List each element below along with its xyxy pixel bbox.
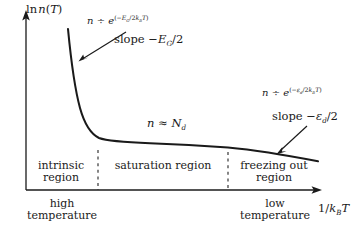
annotation-freezing-formula: n ÷ e(−εd/2kBT) [262, 87, 322, 99]
freezing-slope-half: /2 [327, 109, 338, 123]
x-axis-label-T: T [341, 201, 349, 215]
figure-canvas: ln n(T) n ÷ e(−EG/2kBT) slope −EG/2 n ≈ … [0, 0, 362, 235]
freezing-exp-close: ) [319, 86, 321, 93]
annotation-freezing-slope: slope −εd/2 [272, 110, 338, 125]
temperature-label-low: low temperature [222, 198, 328, 223]
region-label-intrinsic: intrinsic region [24, 160, 98, 185]
region-label-intrinsic-line2: region [24, 172, 98, 184]
saturation-formula-d: d [181, 123, 186, 132]
freezing-exp-open: (− [289, 86, 297, 93]
freezing-formula-n: n [262, 87, 268, 98]
freezing-slope-arrowhead [276, 147, 286, 154]
intrinsic-slope-minus: − [148, 32, 158, 46]
saturation-formula-N: N [171, 116, 181, 130]
saturation-formula-approx-symbol: ≈ [158, 116, 168, 130]
freezing-slope-word: slope [272, 109, 303, 123]
intrinsic-exp-open: (− [114, 14, 122, 21]
temperature-label-high-line2: temperature [8, 210, 116, 222]
y-axis-label-ln: ln [26, 2, 37, 16]
intrinsic-formula-proportional-symbol: ÷ [97, 15, 105, 26]
x-axis-label: 1/kBT [318, 202, 349, 217]
intrinsic-slope-half: /2 [172, 32, 183, 46]
region-label-saturation-line1: saturation region [100, 160, 226, 172]
region-label-freezing: freezing out region [230, 160, 318, 185]
freezing-slope-arrow-shaft [281, 126, 307, 150]
temperature-label-low-line2: temperature [222, 210, 328, 222]
annotation-intrinsic-slope: slope −EG/2 [114, 33, 183, 48]
x-axis-label-one-over: 1/ [318, 201, 329, 215]
y-axis-label-paren-close: ) [58, 2, 63, 16]
freezing-slope-minus: − [306, 109, 316, 123]
temperature-label-high: high temperature [8, 198, 116, 223]
region-label-saturation: saturation region [100, 160, 226, 172]
y-axis-label-n: n [38, 2, 45, 16]
annotation-intrinsic-formula: n ÷ e(−EG/2kBT) [87, 15, 149, 27]
intrinsic-exp-close: ) [146, 14, 148, 21]
intrinsic-slope-word: slope [114, 32, 145, 46]
saturation-formula-n: n [147, 116, 154, 130]
y-axis-label-T: T [50, 2, 58, 16]
intrinsic-formula-exponent: (−EG/2kBT) [114, 14, 148, 21]
intrinsic-formula-n: n [87, 15, 93, 26]
annotation-saturation-formula: n ≈ Nd [147, 117, 186, 132]
region-label-freezing-line2: region [230, 172, 318, 184]
freezing-formula-proportional-symbol: ÷ [272, 87, 280, 98]
y-axis-label: ln n(T) [26, 3, 62, 16]
freezing-formula-exponent: (−εd/2kBT) [289, 86, 322, 93]
